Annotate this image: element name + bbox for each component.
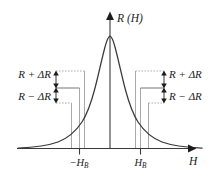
y-axis-label: R (H)	[116, 12, 143, 25]
x-axis-label: H	[188, 155, 198, 167]
measurement-bracket-left	[53, 71, 59, 104]
resistance-peak-diagram: R (H) H R + ΔR R − ΔR R + ΔR R − ΔR −HB …	[0, 0, 210, 181]
figure-container: R (H) H R + ΔR R − ΔR R + ΔR R − ΔR −HB …	[0, 0, 210, 181]
minus-HB-subscript: B	[84, 162, 89, 170]
y-axis-arrowhead	[106, 12, 114, 21]
plus-HB-subscript: B	[142, 162, 147, 170]
label-right-upper: R + ΔR	[168, 68, 202, 80]
label-right-lower: R − ΔR	[168, 90, 202, 102]
arrowhead-right-upper-top	[161, 71, 167, 76]
label-left-lower: R − ΔR	[17, 90, 51, 102]
x-axis-arrowhead	[188, 145, 197, 153]
measurement-bracket-right	[161, 71, 167, 104]
arrowhead-left-lower-bottom	[53, 99, 59, 104]
x-tick-label-plus-HB: HB	[134, 157, 148, 170]
dropline-group-right	[136, 71, 149, 148]
label-left-upper: R + ΔR	[17, 68, 51, 80]
arrowhead-left-upper-top	[53, 71, 59, 76]
x-tick-label-minus-HB: −HB	[71, 157, 90, 170]
dropline-group-left	[72, 71, 85, 148]
